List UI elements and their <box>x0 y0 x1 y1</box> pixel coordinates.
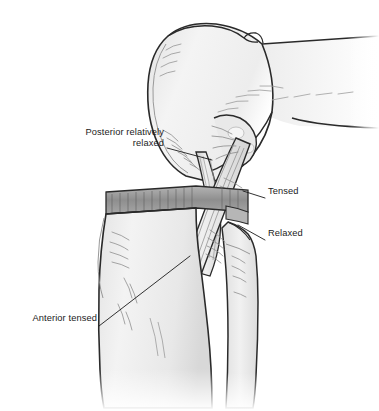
label-anterior-tensed: Anterior tensed <box>0 313 97 324</box>
fibula <box>218 222 266 411</box>
knee-joint-illustration <box>0 0 379 411</box>
label-relaxed: Relaxed <box>268 228 303 239</box>
label-tensed: Tensed <box>268 186 299 197</box>
label-posterior-relatively-relaxed: Posterior relatively relaxed <box>0 127 164 150</box>
anatomy-figure: Posterior relatively relaxed Tensed Rela… <box>0 0 379 411</box>
femur <box>148 24 379 183</box>
